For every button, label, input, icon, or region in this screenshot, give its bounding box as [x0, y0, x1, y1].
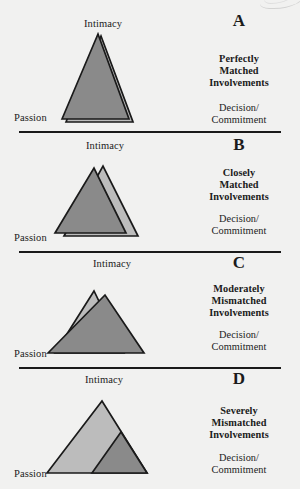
axis-label-decision-a: Decision/: [186, 102, 292, 114]
panel-title-b-line3: Involvements: [186, 191, 292, 203]
caption-d: D Severely Mismatched Involvements Decis…: [186, 370, 292, 476]
panel-letter-b: B: [186, 136, 292, 153]
love-triangle-figure: Intimacy Passion A Perfectly Matched Inv…: [0, 0, 300, 489]
panel-letter-c: C: [186, 254, 292, 271]
caption-b: B Closely Matched Involvements Decision/…: [186, 136, 292, 237]
axis-label-decision-commitment-d: Decision/ Commitment: [186, 452, 292, 476]
panel-b: Intimacy Passion B Closely Matched Invol…: [0, 134, 300, 254]
panel-title-c: Moderately Mismatched Involvements: [186, 283, 292, 319]
axis-label-intimacy-b: Intimacy: [86, 140, 124, 152]
triangle-plot-d: [14, 388, 190, 482]
panel-title-a-line1: Perfectly: [186, 53, 292, 65]
panel-title-c-line3: Involvements: [186, 307, 292, 319]
panel-title-d-line1: Severely: [186, 405, 292, 417]
triangle-plot-b: [14, 152, 190, 244]
panel-a: Intimacy Passion A Perfectly Matched Inv…: [0, 0, 300, 134]
panel-title-a: Perfectly Matched Involvements: [186, 53, 292, 89]
panel-title-a-line2: Matched: [186, 65, 292, 77]
triangle-partner-2-a: [62, 34, 129, 119]
axis-label-commitment-d: Commitment: [186, 464, 292, 476]
panel-letter-d: D: [186, 370, 292, 387]
panel-title-d: Severely Mismatched Involvements: [186, 405, 292, 441]
axis-label-intimacy-d: Intimacy: [85, 374, 123, 386]
panel-title-b-line2: Matched: [186, 179, 292, 191]
panel-title-c-line1: Moderately: [186, 283, 292, 295]
panel-title-d-line3: Involvements: [186, 429, 292, 441]
caption-a: A Perfectly Matched Involvements Decisio…: [186, 12, 292, 126]
axis-label-decision-d: Decision/: [186, 452, 292, 464]
axis-label-decision-commitment-b: Decision/ Commitment: [186, 213, 292, 237]
panel-letter-a: A: [186, 12, 292, 29]
panel-title-c-line2: Mismatched: [186, 295, 292, 307]
axis-label-decision-b: Decision/: [186, 213, 292, 225]
panel-d: Intimacy Passion D Severely Mismatched I…: [0, 370, 300, 489]
axis-label-commitment-a: Commitment: [186, 114, 292, 126]
panel-title-b: Closely Matched Involvements: [186, 167, 292, 203]
panel-title-b-line1: Closely: [186, 167, 292, 179]
triangle-plot-c: [14, 272, 190, 362]
axis-label-decision-commitment-c: Decision/ Commitment: [186, 329, 292, 353]
panel-title-a-line3: Involvements: [186, 77, 292, 89]
triangle-partner-2-c: [48, 295, 144, 353]
axis-label-decision-commitment-a: Decision/ Commitment: [186, 102, 292, 126]
axis-label-decision-c: Decision/: [186, 329, 292, 341]
panel-c: Intimacy Passion C Moderately Mismatched…: [0, 254, 300, 370]
axis-label-intimacy-c: Intimacy: [93, 258, 131, 270]
panel-divider-a: [19, 131, 281, 133]
axis-label-commitment-c: Commitment: [186, 341, 292, 353]
axis-label-commitment-b: Commitment: [186, 225, 292, 237]
caption-c: C Moderately Mismatched Involvements Dec…: [186, 254, 292, 353]
panel-title-d-line2: Mismatched: [186, 417, 292, 429]
triangle-plot-a: [14, 26, 190, 130]
